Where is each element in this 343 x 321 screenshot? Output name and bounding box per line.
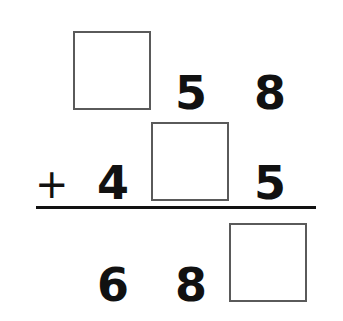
sum-tens-digit: 8: [175, 268, 205, 304]
addend1-ones-digit: 8: [254, 76, 284, 112]
answer-box-addend1-hundreds[interactable]: [73, 31, 151, 110]
addend2-ones-digit: 5: [254, 166, 284, 202]
answer-box-sum-ones[interactable]: [229, 223, 307, 302]
plus-sign: +: [35, 171, 65, 197]
answer-box-addend2-tens[interactable]: [151, 122, 229, 201]
sum-line: [36, 206, 316, 209]
addition-worksheet: 5 8 + 4 5 6 8: [0, 0, 343, 321]
addend2-hundreds-digit: 4: [97, 166, 127, 202]
addend1-tens-digit: 5: [175, 76, 205, 112]
sum-hundreds-digit: 6: [97, 268, 127, 304]
